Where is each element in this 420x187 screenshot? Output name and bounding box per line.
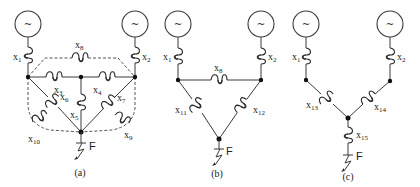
inductor-x1-icon [302, 48, 310, 64]
bus-node [304, 78, 308, 82]
label-x8: x8 [75, 39, 84, 52]
bus-node [388, 79, 392, 83]
inductor-x2-icon [386, 48, 394, 64]
generator-1: ~ [15, 11, 41, 37]
label-x8: x8 [214, 62, 223, 75]
generator-2: ~ [248, 11, 274, 37]
bus-node [26, 75, 30, 79]
generator-1: ~ [293, 11, 319, 37]
ac-source-icon: ~ [257, 19, 265, 30]
inductor-x2-icon [131, 47, 139, 63]
label-x1: x1 [292, 51, 301, 64]
caption-c: (c) [342, 171, 353, 183]
bus-node [133, 75, 137, 79]
inductor-x9-icon [113, 110, 131, 126]
fault-ground-icon [341, 155, 353, 172]
label-x14: x14 [374, 101, 387, 114]
panel-b: ~ ~ x1 x2 x8 x11 x12 F (b) [163, 11, 277, 180]
label-x7: x7 [117, 92, 126, 105]
fault-ground-icon [212, 149, 224, 166]
ac-source-icon: ~ [386, 19, 394, 30]
power-network-diagram: ~ ~ x1 x2 x8 x3 x4 x5 [0, 0, 420, 187]
label-x13: x13 [306, 99, 319, 112]
label-x6: x6 [60, 91, 69, 104]
inductor-x10-icon [30, 109, 48, 125]
label-x1: x1 [13, 51, 22, 64]
inductor-x5-icon [77, 94, 85, 110]
star-node [346, 116, 351, 121]
label-x2: x2 [142, 51, 151, 64]
label-x4: x4 [93, 84, 102, 97]
inductor-x8-icon [211, 75, 227, 84]
inductor-x8-icon [72, 53, 88, 62]
inductor-x3-icon [46, 72, 62, 81]
inductor-x1-icon [174, 48, 182, 64]
inductor-x15-icon [344, 127, 352, 143]
bus-node [259, 78, 263, 82]
inductor-x11-icon [188, 96, 205, 114]
label-x10: x10 [28, 133, 41, 146]
inductor-x1-icon [24, 47, 32, 63]
ac-source-icon: ~ [131, 19, 139, 30]
label-x12: x12 [253, 104, 266, 117]
inductor-x7-icon [100, 94, 118, 112]
inductor-x2-icon [257, 48, 265, 64]
panel-c: ~ ~ x1 x2 x13 x14 x15 F (c) [292, 11, 406, 183]
panel-a: ~ ~ x1 x2 x8 x3 x4 x5 [13, 11, 151, 179]
label-x2: x2 [268, 51, 277, 64]
fault-label: F [226, 145, 233, 157]
bus-node [79, 75, 83, 79]
bus-node [176, 78, 180, 82]
inductor-x4-icon [99, 72, 115, 81]
inductor-x12-icon [233, 96, 250, 114]
caption-b: (b) [211, 168, 223, 180]
ac-source-icon: ~ [174, 19, 182, 30]
label-x2: x2 [397, 51, 406, 64]
label-x1: x1 [163, 51, 172, 64]
generator-2: ~ [122, 11, 148, 37]
label-x15: x15 [356, 129, 369, 142]
ac-source-icon: ~ [302, 19, 310, 30]
fault-ground-icon [74, 143, 86, 160]
ac-source-icon: ~ [24, 19, 32, 30]
label-x9: x9 [124, 129, 133, 142]
label-x5: x5 [70, 109, 79, 122]
generator-1: ~ [165, 11, 191, 37]
fault-label: F [356, 150, 363, 162]
fault-label: F [89, 140, 96, 152]
caption-a: (a) [74, 167, 85, 179]
generator-2: ~ [377, 11, 403, 37]
label-x11: x11 [175, 104, 187, 117]
